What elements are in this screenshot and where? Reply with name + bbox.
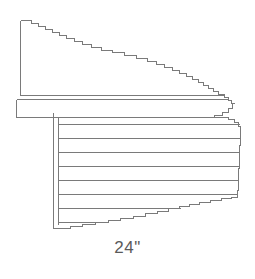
dimension-label: 24" <box>0 238 255 258</box>
fascia-band <box>17 95 235 118</box>
sloped-roof-face <box>21 21 225 96</box>
siding-bottom-stepped-edge <box>61 198 238 229</box>
siding-top-edge <box>59 118 241 127</box>
fascia-bottom-edge <box>17 104 235 118</box>
corner-post <box>54 113 61 229</box>
siding-panel-outline <box>59 118 241 229</box>
siding-course-lines <box>59 125 240 223</box>
roof-top-stepped-edge <box>21 21 225 95</box>
siding-right-edge <box>238 127 241 198</box>
drawing-canvas: 24" <box>0 0 255 279</box>
